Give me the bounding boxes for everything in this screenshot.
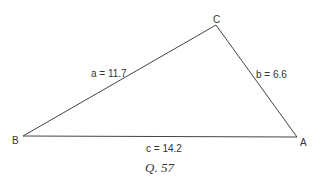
vertex-c-label: C (213, 14, 220, 25)
side-b-label: b = 6.6 (256, 69, 287, 80)
vertex-a-label: A (300, 137, 307, 148)
vertex-b-label: B (12, 135, 19, 146)
side-c-label: c = 14.2 (146, 143, 182, 154)
side-a (23, 25, 216, 136)
side-a-label: a = 11.7 (91, 68, 127, 79)
side-c (23, 136, 297, 137)
triangle-diagram: C B A a = 11.7 b = 6.6 c = 14.2 Q. 57 (0, 0, 333, 182)
question-caption: Q. 57 (145, 160, 174, 175)
side-b (216, 25, 297, 137)
